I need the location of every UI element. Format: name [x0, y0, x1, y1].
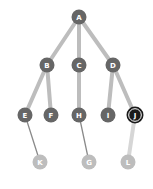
node-k[interactable]: K [33, 155, 48, 170]
node-g[interactable]: G [82, 155, 97, 170]
node-label: L [126, 159, 131, 167]
edge-a-b [47, 17, 79, 65]
node-label: F [49, 112, 54, 120]
edge-b-f [47, 65, 51, 115]
node-label: C [76, 62, 81, 70]
node-label: J [133, 112, 137, 120]
node-label: E [23, 112, 28, 120]
node-l[interactable]: L [121, 155, 136, 170]
node-j[interactable]: J [127, 107, 144, 124]
node-h[interactable]: H [72, 108, 87, 123]
node-f[interactable]: F [44, 108, 59, 123]
node-a[interactable]: A [72, 10, 87, 25]
tree-diagram: ABCDEFHIJKGL [0, 0, 153, 189]
node-b[interactable]: B [40, 58, 55, 73]
edge-b-e [25, 65, 47, 115]
node-label: A [76, 14, 82, 22]
edges-layer [25, 17, 135, 162]
node-label: K [37, 159, 43, 167]
node-label: D [110, 62, 116, 70]
node-i[interactable]: I [101, 108, 116, 123]
node-d[interactable]: D [106, 58, 121, 73]
node-label: I [107, 112, 110, 120]
node-label: B [44, 62, 49, 70]
edge-d-i [108, 65, 113, 115]
node-e[interactable]: E [18, 108, 33, 123]
edge-a-d [79, 17, 113, 65]
node-label: G [86, 159, 92, 167]
node-label: H [76, 112, 82, 120]
node-c[interactable]: C [72, 58, 87, 73]
